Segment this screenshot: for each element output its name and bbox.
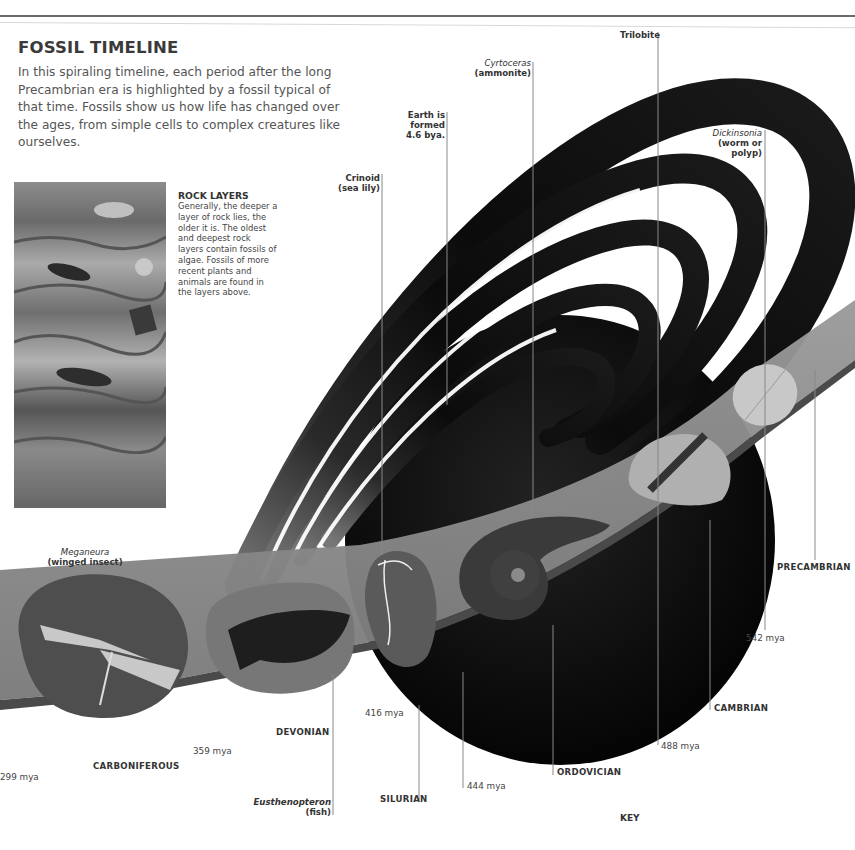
period-ordovician: ORDOVICIAN [557, 767, 621, 777]
label-trilobite: Trilobite [620, 30, 660, 40]
period-devonian: DEVONIAN [276, 727, 329, 737]
fossil-eusthenopteron [206, 582, 355, 693]
label-earth-line2: formed [400, 120, 445, 130]
label-eusthenopteron-desc: (fish) [240, 807, 331, 817]
label-cyrtoceras-desc: (ammonite) [470, 68, 531, 78]
period-silurian: SILURIAN [380, 794, 428, 804]
label-dickinsonia: Dickinsonia (worm or polyp) [700, 128, 762, 158]
label-eusthenopteron: Eusthenopteron (fish) [240, 797, 331, 817]
date-299: 299 mya [0, 772, 39, 782]
date-542: 542 mya [746, 633, 785, 643]
label-meganeura-name: Meganeura [40, 547, 130, 557]
label-dickinsonia-name: Dickinsonia [700, 128, 762, 138]
date-359: 359 mya [193, 746, 232, 756]
date-416: 416 mya [365, 708, 404, 718]
label-dickinsonia-desc1: (worm or [700, 138, 762, 148]
label-meganeura-desc: (winged insect) [40, 557, 130, 567]
period-cambrian: CAMBRIAN [714, 703, 768, 713]
label-crinoid-line1: Crinoid [330, 173, 380, 183]
label-cyrtoceras: Cyrtoceras (ammonite) [470, 58, 531, 78]
rock-layers-title: ROCK LAYERS [178, 190, 249, 201]
date-488: 488 mya [661, 741, 700, 751]
label-earth-line1: Earth is [400, 110, 445, 120]
label-crinoid-line2: (sea lily) [330, 183, 380, 193]
label-meganeura: Meganeura (winged insect) [40, 547, 130, 567]
key-heading: KEY [620, 813, 640, 823]
label-crinoid: Crinoid (sea lily) [330, 173, 380, 193]
fossil-meganeura [19, 574, 188, 718]
date-444: 444 mya [467, 781, 506, 791]
period-carboniferous: CARBONIFEROUS [93, 761, 180, 771]
period-precambrian: PRECAMBRIAN [777, 562, 851, 572]
rock-layers-text: Generally, the deeper a layer of rock li… [178, 201, 278, 298]
label-dickinsonia-desc2: polyp) [700, 148, 762, 158]
label-eusthenopteron-name: Eusthenopteron [240, 797, 331, 807]
label-earth-formed: Earth is formed 4.6 bya. [400, 110, 445, 140]
rock-layers-image [14, 182, 166, 508]
label-earth-line3: 4.6 bya. [400, 130, 445, 140]
label-cyrtoceras-name: Cyrtoceras [470, 58, 531, 68]
